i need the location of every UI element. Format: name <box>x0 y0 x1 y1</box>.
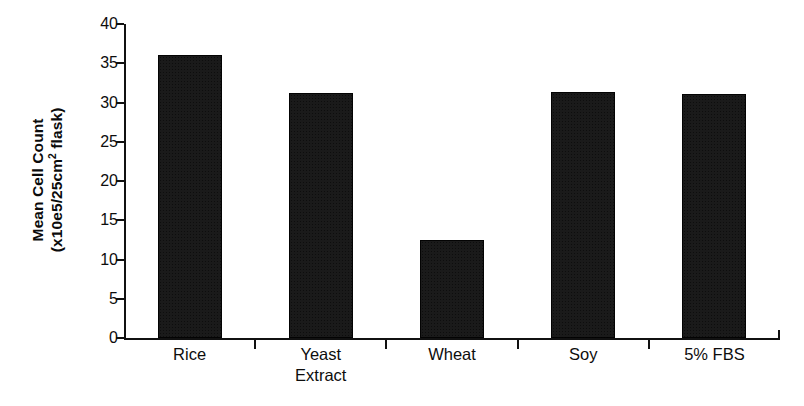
plot-area <box>124 24 780 338</box>
x-axis-category-label-line: Yeast <box>255 344 386 365</box>
bar <box>158 55 222 338</box>
y-axis-tick <box>116 337 124 339</box>
x-axis-category-label-line: Rice <box>124 344 255 365</box>
y-axis-tick-label: 5 <box>78 290 118 308</box>
y-axis-tick-label: 25 <box>78 133 118 151</box>
y-axis-title-superscript: 2 <box>47 153 58 159</box>
y-axis-tick <box>116 102 124 104</box>
bar <box>289 93 353 338</box>
y-axis-tick <box>116 259 124 261</box>
bar <box>551 92 615 338</box>
x-axis-category-label-line: 5% FBS <box>649 344 780 365</box>
y-axis-title-line-2-suffix: flask) <box>48 108 65 154</box>
y-axis-tick <box>116 180 124 182</box>
y-axis-title-line-1: Mean Cell Count <box>29 108 48 253</box>
y-axis-tick-label: 35 <box>78 54 118 72</box>
y-axis-tick <box>116 23 124 25</box>
y-axis-title-line-2: (x10e5/25cm2 flask) <box>48 108 67 253</box>
y-axis-tick <box>116 219 124 221</box>
y-axis-tick <box>116 141 124 143</box>
y-axis-tick <box>116 62 124 64</box>
y-axis-tick-label: 15 <box>78 211 118 229</box>
y-axis-tick-label: 10 <box>78 251 118 269</box>
bar-chart-figure: Mean Cell Count (x10e5/25cm2 flask) 4035… <box>0 0 804 406</box>
y-axis-tick-label: 20 <box>78 172 118 190</box>
bar <box>682 94 746 338</box>
x-axis-line <box>124 338 780 340</box>
x-axis-category-label: Wheat <box>386 344 517 365</box>
x-axis-category-labels: RiceYeastExtractWheatSoy5% FBS <box>124 344 780 404</box>
y-axis-tick-labels: 4035302520151050 <box>70 0 118 406</box>
x-axis-category-label: 5% FBS <box>649 344 780 365</box>
x-axis-category-label-line: Wheat <box>386 344 517 365</box>
x-axis-category-label-line: Soy <box>518 344 649 365</box>
y-axis-tick-label: 30 <box>78 94 118 112</box>
bar <box>420 240 484 338</box>
x-axis-category-label: Rice <box>124 344 255 365</box>
y-axis-tick-label: 40 <box>78 15 118 33</box>
x-axis-category-label: YeastExtract <box>255 344 386 386</box>
x-axis-category-label-line: Extract <box>255 365 386 386</box>
y-axis-tick <box>116 298 124 300</box>
y-axis-title: Mean Cell Count (x10e5/25cm2 flask) <box>29 108 67 253</box>
y-axis-tick-label: 0 <box>78 329 118 347</box>
x-axis-category-label: Soy <box>518 344 649 365</box>
bar-series <box>124 24 780 338</box>
y-axis-title-line-2-prefix: (x10e5/25cm <box>48 159 65 252</box>
